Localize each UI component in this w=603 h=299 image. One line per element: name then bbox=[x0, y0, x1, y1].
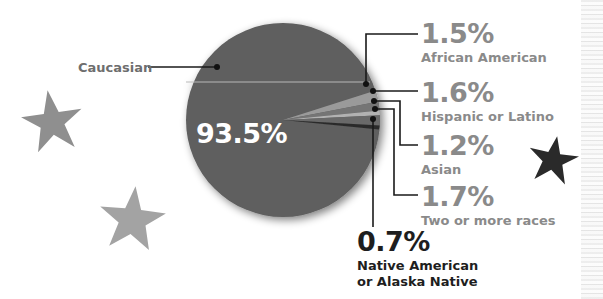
star-icon bbox=[18, 86, 87, 154]
name-african-american: African American bbox=[421, 50, 547, 66]
label-two-or-more: 1.7% Two or more races bbox=[421, 183, 555, 229]
label-asian: 1.2% Asian bbox=[421, 132, 494, 178]
label-caucasian: Caucasian bbox=[78, 60, 152, 75]
name-hispanic: Hispanic or Latino bbox=[421, 109, 554, 125]
name-two-or-more: Two or more races bbox=[421, 213, 555, 229]
value-two-or-more: 1.7% bbox=[421, 183, 555, 210]
value-native: 0.7% bbox=[357, 228, 478, 255]
value-asian: 1.2% bbox=[421, 132, 494, 159]
label-african-american: 1.5% African American bbox=[421, 20, 547, 66]
label-hispanic: 1.6% Hispanic or Latino bbox=[421, 79, 554, 125]
name-asian: Asian bbox=[421, 162, 494, 178]
name-native-line2: or Alaska Native bbox=[357, 274, 478, 290]
value-african-american: 1.5% bbox=[421, 20, 547, 47]
value-hispanic: 1.6% bbox=[421, 79, 554, 106]
name-native-line1: Native American bbox=[357, 258, 478, 274]
star-icon bbox=[96, 183, 168, 252]
value-caucasian: 93.5% bbox=[196, 118, 287, 149]
grunge-edge bbox=[581, 0, 603, 299]
label-native: 0.7% Native American or Alaska Native bbox=[357, 228, 478, 290]
star-icon bbox=[525, 132, 582, 186]
